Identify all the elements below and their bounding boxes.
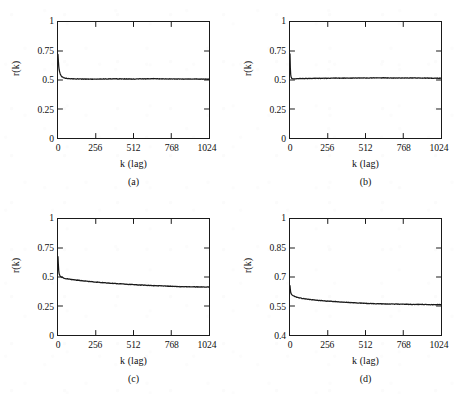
y-ticklabel: 0.7 (274, 272, 286, 282)
x-axis-ticklabels-a: 02565127681024 (57, 143, 210, 157)
y-axis-label-a: r(k) (10, 52, 21, 86)
panel-caption-d: (d) (289, 373, 442, 384)
plot-svg-a (58, 22, 209, 138)
x-ticklabel: 768 (165, 340, 179, 350)
x-ticklabel: 0 (56, 340, 61, 350)
x-ticklabel: 256 (88, 143, 102, 153)
panel-c: 00.250.50.751 02565127681024 r(k) k (lag… (0, 197, 232, 394)
panel-d: 0.40.550.70.851 02565127681024 r(k) k (l… (232, 197, 464, 394)
x-ticklabel: 768 (397, 143, 411, 153)
panel-b: 00.250.50.751 02565127681024 r(k) k (lag… (232, 0, 464, 197)
panel-caption-c: (c) (57, 373, 210, 384)
plot-area-d (289, 218, 442, 336)
y-ticklabel: 0.75 (38, 243, 54, 253)
x-axis-label-c: k (lag) (57, 355, 210, 366)
plot-svg-d (290, 219, 441, 335)
x-axis-label-a: k (lag) (57, 158, 210, 169)
x-axis-ticklabels-b: 02565127681024 (289, 143, 442, 157)
x-ticklabel: 1024 (430, 143, 449, 153)
x-ticklabel: 512 (358, 340, 372, 350)
x-ticklabel: 1024 (198, 143, 217, 153)
y-ticklabel: 0.25 (270, 105, 286, 115)
y-ticklabel: 0.4 (274, 331, 286, 341)
y-ticklabel: 0.55 (270, 302, 286, 312)
figure-grid: 00.250.50.751 02565127681024 r(k) k (lag… (0, 0, 464, 394)
x-ticklabel: 512 (358, 143, 372, 153)
plot-area-c (57, 218, 210, 336)
x-ticklabel: 256 (320, 340, 334, 350)
y-ticklabel: 0 (49, 331, 54, 341)
y-ticklabel: 1 (49, 16, 54, 26)
y-ticklabel: 1 (281, 16, 286, 26)
y-ticklabel: 0.5 (274, 75, 286, 85)
plot-area-a (57, 21, 210, 139)
x-ticklabel: 512 (126, 143, 140, 153)
x-axis-label-b: k (lag) (289, 158, 442, 169)
data-series-line (290, 54, 441, 79)
y-ticklabel: 0.75 (38, 46, 54, 56)
y-ticklabel: 0.5 (42, 272, 54, 282)
panel-a: 00.250.50.751 02565127681024 r(k) k (lag… (0, 0, 232, 197)
y-ticklabel: 0 (49, 134, 54, 144)
x-ticklabel: 0 (56, 143, 61, 153)
x-axis-label-d: k (lag) (289, 355, 442, 366)
x-ticklabel: 0 (288, 340, 293, 350)
plot-svg-c (58, 219, 209, 335)
x-ticklabel: 768 (397, 340, 411, 350)
y-ticklabel: 0 (281, 134, 286, 144)
panel-caption-b: (b) (289, 176, 442, 187)
x-ticklabel: 256 (320, 143, 334, 153)
x-ticklabel: 1024 (198, 340, 217, 350)
y-ticklabel: 0.25 (38, 302, 54, 312)
x-ticklabel: 512 (126, 340, 140, 350)
y-axis-label-c: r(k) (10, 249, 21, 283)
y-ticklabel: 1 (49, 213, 54, 223)
y-ticklabel: 0.25 (38, 105, 54, 115)
x-ticklabel: 1024 (430, 340, 449, 350)
y-ticklabel: 0.85 (270, 243, 286, 253)
y-axis-label-b: r(k) (242, 52, 253, 86)
x-axis-ticklabels-d: 02565127681024 (289, 340, 442, 354)
y-ticklabel: 1 (281, 213, 286, 223)
x-axis-ticklabels-c: 02565127681024 (57, 340, 210, 354)
y-ticklabel: 0.75 (270, 46, 286, 56)
plot-area-b (289, 21, 442, 139)
y-ticklabel: 0.5 (42, 75, 54, 85)
plot-svg-b (290, 22, 441, 138)
x-ticklabel: 768 (165, 143, 179, 153)
data-series-line (290, 286, 441, 305)
x-ticklabel: 0 (288, 143, 293, 153)
data-series-line (58, 54, 209, 79)
data-series-line (58, 257, 209, 287)
x-ticklabel: 256 (88, 340, 102, 350)
panel-caption-a: (a) (57, 176, 210, 187)
y-axis-label-d: r(k) (242, 249, 253, 283)
